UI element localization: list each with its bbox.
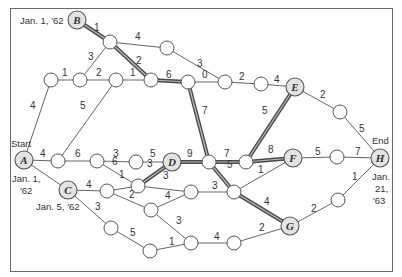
edge-n2-n8 [167, 48, 225, 82]
node-n3 [44, 73, 58, 87]
annotation-A-date-line1: Jan. 1, [12, 173, 41, 184]
node-n9 [254, 77, 268, 91]
event-B-label: B [72, 14, 80, 26]
event-H-label: H [375, 152, 385, 164]
event-C-label: C [64, 184, 72, 196]
node-n11 [51, 154, 65, 168]
label-A-n3: 4 [30, 100, 36, 111]
label-n8-n9: 2 [239, 71, 245, 82]
label-n15-F: 8 [268, 144, 274, 155]
label-n14-n15: 7 [224, 148, 230, 159]
event-G: G [281, 217, 299, 235]
node-n16 [330, 150, 344, 164]
label-n1-n2: 4 [135, 31, 141, 42]
label-n11-n5: 5 [80, 100, 86, 111]
event-F: F [284, 149, 302, 167]
label-D-n14: 9 [187, 148, 193, 159]
node-n13 [129, 155, 143, 169]
label-n14-n20: 5 [227, 159, 233, 170]
node-n22 [331, 193, 345, 207]
label-n20-F: 1 [258, 164, 264, 175]
event-E: E [286, 78, 304, 96]
label-n17-n19: 3 [163, 170, 169, 181]
node-n12 [90, 154, 104, 168]
node-n21 [144, 203, 158, 217]
label-n11-n12: 6 [75, 148, 81, 159]
event-B: B [68, 11, 86, 29]
label-n16-H: 7 [355, 146, 361, 157]
node-n5 [109, 73, 123, 87]
label-n3-n4: 1 [62, 67, 68, 78]
node-n20 [227, 185, 241, 199]
annotation-A-date-line2: '62 [20, 185, 32, 196]
label-n6-n14: 7 [202, 105, 208, 116]
node-n7 [144, 73, 158, 87]
node-n26 [227, 236, 241, 250]
label-n26-G: 2 [259, 222, 265, 233]
label-E-n10: 2 [320, 89, 326, 100]
pert-network-diagram: 1 4 3 2 3 1 2 1 6 0 2 4 4 4 5 6 3 5 9 7 … [0, 0, 402, 277]
label-n20-G: 4 [264, 196, 270, 207]
label-n10-H: 5 [359, 123, 365, 134]
label-n18-n17: 1 [119, 169, 125, 180]
label-n6-n8: 0 [202, 69, 208, 80]
node-n6 [181, 75, 195, 89]
label-n21-n24: 3 [176, 215, 182, 226]
event-A-label: A [19, 154, 27, 166]
event-D: D [163, 153, 181, 171]
node-n14 [202, 155, 216, 169]
edge-labels: 1 4 3 2 3 1 2 1 6 0 2 4 4 4 5 6 3 5 9 7 … [30, 22, 365, 247]
node-n10 [333, 105, 347, 119]
label-n2-n8: 3 [197, 58, 203, 69]
node-n8 [218, 75, 232, 89]
label-n5-n7: 1 [130, 67, 136, 78]
annotation-H-date-line3: '63 [373, 195, 385, 206]
label-C-n23: 3 [95, 201, 101, 212]
label-n7-n6: 6 [166, 69, 172, 80]
label-n22-H: 1 [352, 171, 358, 182]
node-n25 [143, 244, 157, 258]
event-A: A [15, 151, 33, 169]
label-n23-n25: 5 [130, 227, 136, 238]
event-G-label: G [286, 220, 294, 232]
event-F-label: F [288, 152, 297, 164]
node-n24 [184, 236, 198, 250]
edge-n11-n5 [58, 80, 116, 161]
node-n18 [100, 184, 114, 198]
node-n15 [239, 155, 253, 169]
annotation-H-date-line1: Jan. [372, 171, 390, 182]
label-n19-n20: 3 [212, 180, 218, 191]
node-n1 [103, 35, 117, 49]
node-n4 [73, 73, 87, 87]
annotation-H-date-line2: 21, [375, 183, 388, 194]
label-n1-n7: 2 [136, 55, 142, 66]
label-n21-n19: 4 [165, 190, 171, 201]
event-E-label: E [290, 81, 298, 93]
edge-n1-n2 [110, 42, 167, 48]
annotation-A-start: Start [11, 138, 31, 149]
label-n15-E: 5 [262, 105, 268, 116]
node-n17 [131, 179, 145, 193]
annotation-B-date: Jan. 1, '62 [20, 15, 64, 26]
label-A-n11: 4 [40, 148, 46, 159]
label-n4-n5: 2 [96, 67, 102, 78]
label-n17-D: 3 [147, 158, 153, 169]
node-n23 [104, 221, 118, 235]
annotation-H-end: End [372, 135, 389, 146]
label-n12-n17: 6 [112, 156, 118, 167]
node-n19 [184, 185, 198, 199]
label-B-n1: 1 [94, 22, 100, 33]
event-D-label: D [167, 156, 176, 168]
annotation-C-date: Jan. 5, '62 [36, 201, 80, 212]
label-G-n22: 2 [311, 203, 317, 214]
label-n1-n4: 3 [88, 51, 94, 62]
event-H: H [371, 149, 389, 167]
label-n9-E: 4 [274, 74, 280, 85]
node-n2 [160, 41, 174, 55]
crit-n20-G [234, 192, 290, 226]
label-n24-n26: 4 [214, 231, 220, 242]
label-C-n18: 4 [86, 179, 92, 190]
label-F-n16: 5 [315, 146, 321, 157]
event-C: C [59, 181, 77, 199]
label-n25-n24: 1 [169, 236, 175, 247]
